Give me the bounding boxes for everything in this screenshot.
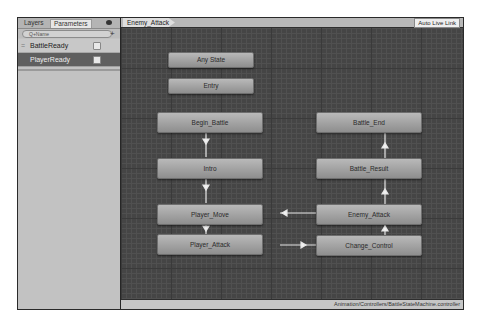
state-battle-end[interactable]: Battle_End bbox=[316, 112, 422, 133]
controller-path: Animation/Controllers/BattleStateMachine… bbox=[334, 300, 460, 309]
drag-handle-icon[interactable]: = bbox=[21, 39, 26, 52]
add-parameter-button[interactable]: + bbox=[110, 29, 115, 38]
state-player-move[interactable]: Player_Move bbox=[157, 204, 263, 225]
status-bar: Animation/Controllers/BattleStateMachine… bbox=[121, 299, 463, 309]
state-change-control[interactable]: Change_Control bbox=[316, 235, 422, 256]
parameter-search-input[interactable]: Q+Name bbox=[22, 30, 112, 38]
state-battle-result[interactable]: Battle_Result bbox=[316, 158, 422, 179]
parameters-panel: Layers Parameters Q+Name + = BattleReady… bbox=[18, 18, 121, 309]
animator-window: Layers Parameters Q+Name + = BattleReady… bbox=[17, 17, 464, 310]
parameter-checkbox[interactable] bbox=[93, 56, 101, 64]
divider bbox=[18, 69, 120, 71]
panel-tabs: Layers Parameters bbox=[18, 18, 120, 29]
state-intro[interactable]: Intro bbox=[157, 158, 263, 179]
parameter-name: PlayerReady bbox=[30, 53, 70, 66]
parameter-row[interactable]: = BattleReady bbox=[18, 39, 120, 53]
parameter-row[interactable]: PlayerReady bbox=[18, 53, 120, 67]
tab-layers[interactable]: Layers bbox=[21, 19, 47, 27]
state-player-attack[interactable]: Player_Attack bbox=[157, 234, 263, 255]
tab-parameters[interactable]: Parameters bbox=[50, 19, 92, 28]
parameter-checkbox[interactable] bbox=[93, 42, 101, 50]
eye-icon[interactable] bbox=[106, 20, 112, 25]
parameter-name: BattleReady bbox=[30, 39, 68, 52]
state-begin-battle[interactable]: Begin_Battle bbox=[157, 112, 263, 133]
state-enemy-attack[interactable]: Enemy_Attack bbox=[316, 204, 422, 225]
auto-live-link-button[interactable]: Auto Live Link bbox=[414, 18, 460, 28]
state-entry[interactable]: Entry bbox=[168, 78, 254, 94]
state-machine-graph[interactable]: Enemy_Attack Auto Live Link bbox=[121, 18, 463, 309]
breadcrumb-layer[interactable]: Enemy_Attack bbox=[123, 18, 175, 27]
state-any-state[interactable]: Any State bbox=[168, 52, 254, 68]
search-row: Q+Name + bbox=[18, 29, 120, 38]
graph-toolbar: Enemy_Attack Auto Live Link bbox=[121, 18, 463, 28]
